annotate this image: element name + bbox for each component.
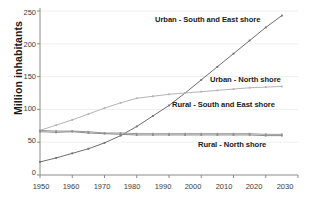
series-label-urban-south-east: Urban - South and East shore: [155, 15, 260, 24]
series-label-rural-south-east: Rural - South and East shore: [172, 100, 275, 109]
chart-container: Million inhabitants 250 200 150 100 50 0…: [0, 0, 315, 202]
series-label-urban-north: Urban - North shore: [210, 75, 281, 84]
series-label-rural-north: Rural - North shore: [198, 140, 266, 149]
